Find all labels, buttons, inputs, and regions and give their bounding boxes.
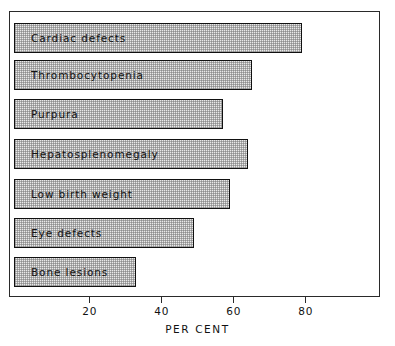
- tick-mark: [161, 297, 162, 303]
- bar-label: Eye defects: [31, 218, 102, 248]
- bar-label: Thrombocytopenia: [31, 60, 144, 90]
- x-axis-title: PER CENT: [0, 323, 395, 335]
- bar-label: Cardiac defects: [31, 23, 126, 53]
- tick-mark: [305, 297, 306, 303]
- bar-label: Low birth weight: [31, 179, 133, 209]
- tick-label: 20: [82, 305, 97, 317]
- tick-mark: [89, 297, 90, 303]
- tick-label: 40: [154, 305, 169, 317]
- bar-label: Hepatosplenomegaly: [31, 139, 159, 169]
- tick-mark: [233, 297, 234, 303]
- tick-label: 80: [298, 305, 313, 317]
- bars-layer: Cardiac defects Thrombocytopenia Purpura…: [9, 11, 380, 297]
- tick-label: 60: [226, 305, 241, 317]
- bar-label: Bone lesions: [31, 257, 108, 287]
- bar-label: Purpura: [31, 99, 79, 129]
- bar-chart: Cardiac defects Thrombocytopenia Purpura…: [0, 0, 395, 346]
